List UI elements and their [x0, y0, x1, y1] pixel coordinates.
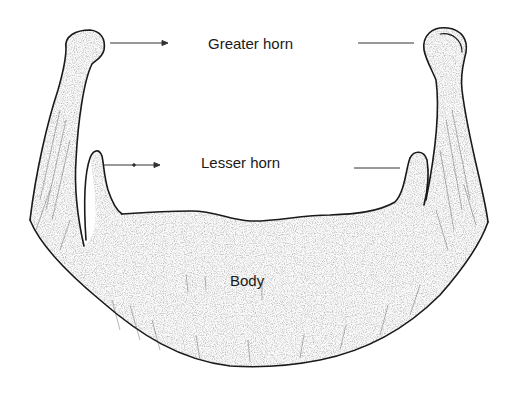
lesser-horn-label: Lesser horn: [201, 155, 280, 170]
hyoid-bone-diagram: Greater horn Lesser horn Body: [0, 0, 508, 396]
hyoid-bone-illustration: [0, 0, 508, 396]
greater-horn-label: Greater horn: [208, 36, 293, 51]
body-label: Body: [230, 273, 264, 288]
lesser-horn-left-arrow: [104, 163, 160, 168]
bone-outline: [30, 28, 488, 367]
leader-arrows: [104, 41, 414, 169]
greater-horn-left-arrow: [110, 41, 168, 46]
